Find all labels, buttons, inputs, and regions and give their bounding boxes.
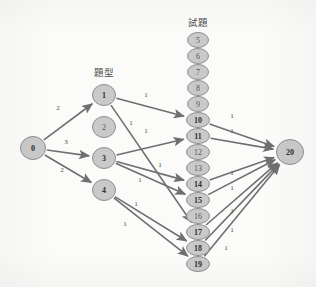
node-label-0: 0 [31, 144, 35, 153]
node-7[interactable]: 7 [188, 65, 209, 80]
edge-weight-1-17: 1 [129, 119, 133, 127]
node-label-18: 18 [194, 244, 202, 253]
node-6[interactable]: 6 [188, 49, 209, 64]
edges-group [44, 98, 280, 256]
node-14[interactable]: 14 [187, 177, 210, 192]
edge-0-to-4 [45, 155, 92, 183]
edge-0-to-3 [47, 150, 89, 156]
node-label-2: 2 [102, 123, 106, 132]
node-15[interactable]: 15 [187, 193, 210, 208]
node-2[interactable]: 2 [93, 117, 116, 138]
edge-weight-4-19: 1 [123, 220, 127, 228]
node-label-20: 20 [286, 148, 294, 157]
edge-weight-17-20: 1 [230, 207, 234, 215]
edge-weight-18-20: 1 [230, 226, 234, 234]
node-label-12: 12 [194, 148, 202, 157]
edge-3-to-14 [116, 161, 184, 180]
node-8[interactable]: 8 [188, 81, 209, 96]
node-5[interactable]: 5 [188, 33, 209, 48]
edge-0-to-1 [44, 104, 92, 140]
layer-label-question-bank: 試題 [188, 17, 209, 28]
edge-weight-4-18: 1 [134, 200, 138, 208]
node-16[interactable]: 16 [187, 209, 210, 224]
node-label-4: 4 [102, 186, 106, 195]
node-label-7: 7 [196, 68, 200, 77]
diagram-canvas: 23211111111111111 0123456789101112131415… [0, 0, 316, 287]
edge-4-to-18 [115, 197, 187, 241]
node-1[interactable]: 1 [93, 85, 116, 106]
edge-weight-10-20: 1 [230, 112, 234, 120]
node-19[interactable]: 19 [187, 257, 210, 272]
node-9[interactable]: 9 [188, 97, 209, 112]
edge-weight-3-11: 1 [144, 127, 148, 135]
edge-weight-11-20: 1 [230, 127, 234, 135]
node-13[interactable]: 13 [187, 161, 210, 176]
node-label-10: 10 [194, 116, 202, 125]
node-label-8: 8 [196, 84, 200, 93]
node-12[interactable]: 12 [187, 145, 210, 160]
edge-17-to-20 [206, 163, 277, 225]
node-18[interactable]: 18 [187, 241, 210, 256]
graph-svg: 23211111111111111 0123456789101112131415… [0, 0, 316, 287]
edge-weight-15-20: 1 [230, 184, 234, 192]
edge-3-to-15 [116, 163, 186, 194]
edge-weight-0-1: 2 [56, 104, 60, 112]
node-label-14: 14 [194, 180, 202, 189]
node-label-19: 19 [194, 260, 202, 269]
edge-weight-0-3: 3 [64, 138, 68, 146]
node-label-17: 17 [194, 228, 202, 237]
node-label-15: 15 [194, 196, 202, 205]
node-label-6: 6 [196, 52, 200, 61]
layer-label-question-type: 題型 [94, 67, 115, 78]
node-20[interactable]: 20 [277, 140, 304, 165]
edge-weight-3-15: 1 [138, 176, 142, 184]
node-10[interactable]: 10 [187, 113, 210, 128]
edge-weight-3-14: 1 [158, 161, 162, 169]
edge-3-to-11 [117, 139, 184, 155]
edge-weight-1-10: 1 [144, 91, 148, 99]
edge-18-to-20 [205, 164, 278, 241]
node-label-1: 1 [102, 91, 106, 100]
edge-weight-19-20: 1 [224, 244, 228, 252]
node-label-9: 9 [196, 100, 200, 109]
node-label-13: 13 [194, 164, 202, 173]
edge-weight-14-20: 1 [230, 169, 234, 177]
node-4[interactable]: 4 [93, 180, 116, 201]
node-17[interactable]: 17 [187, 225, 210, 240]
node-label-16: 16 [194, 212, 202, 221]
node-11[interactable]: 11 [187, 129, 210, 144]
node-label-3: 3 [102, 154, 106, 163]
node-label-11: 11 [194, 132, 202, 141]
node-label-5: 5 [196, 36, 200, 45]
node-0[interactable]: 0 [21, 137, 46, 160]
edge-1-to-10 [116, 98, 183, 116]
node-3[interactable]: 3 [93, 148, 116, 169]
edge-weight-0-4: 2 [60, 166, 64, 174]
